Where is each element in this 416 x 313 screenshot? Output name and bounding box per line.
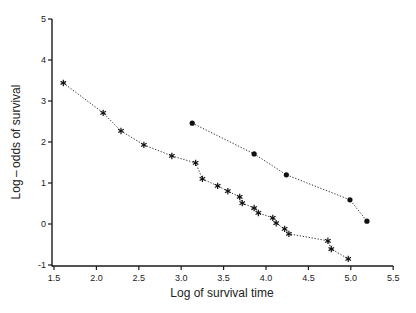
x-axis: 1.52.02.53.03.54.04.55.05.5	[48, 266, 400, 283]
x-tick-label: 2.5	[133, 273, 146, 283]
x-tick-label: 2.0	[90, 273, 103, 283]
series-dot-line	[192, 123, 367, 221]
y-tick-label: 5	[41, 14, 46, 24]
x-tick-label: 3.5	[217, 273, 230, 283]
star-marker	[345, 256, 351, 262]
star-marker	[141, 142, 147, 148]
star-marker	[239, 200, 245, 206]
x-tick-label: 4.0	[260, 273, 273, 283]
y-tick-label: -1	[38, 260, 46, 270]
x-tick-label: 3.0	[175, 273, 188, 283]
plot-area	[61, 80, 370, 262]
y-tick-label: 0	[41, 219, 46, 229]
star-marker	[237, 194, 243, 200]
series-star-line	[63, 83, 348, 259]
x-axis-title: Log of survival time	[170, 286, 274, 300]
circle-marker	[347, 197, 352, 202]
x-tick-label: 5.5	[387, 273, 400, 283]
y-tick-label: 2	[41, 137, 46, 147]
circle-marker	[252, 151, 257, 156]
y-axis: -1012345	[38, 14, 52, 270]
star-marker	[169, 153, 175, 159]
y-axis-title: Log – odds of survival	[9, 85, 23, 200]
x-tick-label: 4.5	[302, 273, 315, 283]
star-marker	[200, 176, 206, 182]
circle-marker	[284, 172, 289, 177]
line-chart: -1012345 1.52.02.53.03.54.04.55.05.5 Log…	[0, 0, 416, 313]
star-marker	[256, 210, 262, 216]
star-marker	[61, 80, 67, 86]
x-tick-label: 5.0	[345, 273, 358, 283]
star-marker	[215, 183, 221, 189]
y-tick-label: 3	[41, 96, 46, 106]
star-marker	[329, 246, 335, 252]
y-tick-label: 1	[41, 178, 46, 188]
star-marker	[100, 110, 106, 116]
star-marker	[225, 188, 231, 194]
star-marker	[325, 238, 331, 244]
star-marker	[270, 215, 276, 221]
circle-marker	[364, 219, 369, 224]
star-marker	[193, 160, 199, 166]
y-tick-label: 4	[41, 55, 46, 65]
star-marker	[273, 220, 279, 226]
x-tick-label: 1.5	[48, 273, 61, 283]
circle-marker	[190, 121, 195, 126]
